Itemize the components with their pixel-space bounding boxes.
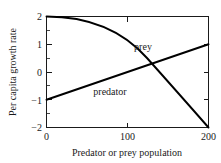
y-tick-label-0: 0 [37, 67, 42, 78]
x-tick-label-100: 100 [120, 131, 135, 142]
curve-label-prey: prey [134, 41, 152, 52]
curve-label-predator: predator [93, 86, 127, 97]
y-tick-label-neg2: −2 [31, 122, 42, 133]
y-tick-label-1: 1 [37, 39, 42, 50]
x-tick-label-200: 200 [201, 131, 216, 142]
x-axis-title: Predator or prey population [72, 147, 182, 158]
x-tick-label-0: 0 [44, 131, 49, 142]
figure-container: 2 1 0 −1 −2 0 100 200 Predator or prey p… [0, 0, 221, 163]
right-axis-ticks [204, 17, 209, 128]
chart-canvas: 2 1 0 −1 −2 0 100 200 Predator or prey p… [0, 0, 221, 163]
y-axis-major-ticks [47, 17, 52, 128]
y-tick-label-neg1: −1 [31, 95, 42, 106]
series-curve-predator [47, 44, 209, 100]
y-tick-label-2: 2 [37, 11, 42, 22]
y-axis-title: Per capita growth rate [7, 27, 18, 116]
